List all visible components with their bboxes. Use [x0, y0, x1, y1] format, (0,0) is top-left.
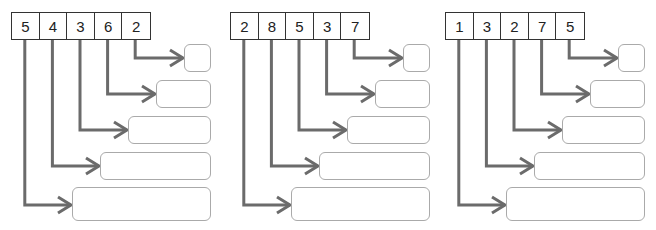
arrow-line — [52, 40, 99, 166]
answer-box[interactable] — [319, 152, 430, 180]
exercise-group-2: 28537 — [230, 0, 444, 230]
answer-box[interactable] — [534, 152, 645, 180]
arrow-line — [486, 40, 533, 166]
arrow-line — [271, 40, 318, 166]
answer-box[interactable] — [156, 80, 211, 108]
arrow-line — [108, 40, 155, 94]
exercise-group-3: 13275 — [445, 0, 656, 230]
answer-box[interactable] — [128, 116, 211, 144]
arrow-line — [299, 40, 346, 130]
exercise-group-1: 54362 — [11, 0, 225, 230]
arrow-line — [80, 40, 127, 130]
answer-box[interactable] — [562, 116, 645, 144]
arrow-line — [244, 40, 290, 205]
answer-box[interactable] — [375, 80, 430, 108]
arrow-line — [459, 40, 505, 205]
answer-box[interactable] — [347, 116, 430, 144]
answer-box[interactable] — [590, 80, 645, 108]
answer-box[interactable] — [100, 152, 211, 180]
answer-box[interactable] — [618, 44, 645, 72]
arrow-line — [514, 40, 561, 130]
answer-box[interactable] — [403, 44, 430, 72]
arrow-line — [25, 40, 71, 205]
arrow-line — [327, 40, 374, 94]
answer-box[interactable] — [506, 187, 645, 221]
answer-box[interactable] — [72, 187, 211, 221]
answer-box[interactable] — [184, 44, 211, 72]
answer-box[interactable] — [291, 187, 430, 221]
arrow-line — [542, 40, 589, 94]
